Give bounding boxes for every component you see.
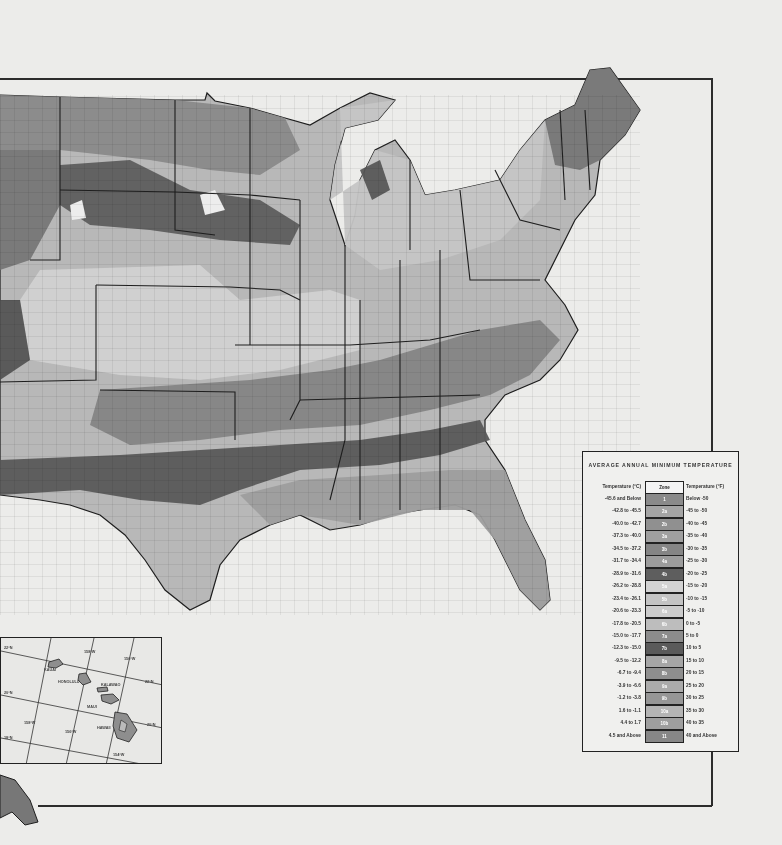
legend-fahrenheit-range: 5 to 0 xyxy=(686,630,738,642)
legend-header-zone: Zone xyxy=(646,482,683,493)
legend-row-zone-5a: -26.2 to -28.8-15 to -20 xyxy=(583,580,738,592)
legend-celsius-range: -37.3 to -40.0 xyxy=(583,530,641,542)
legend-celsius-range: -31.7 to -34.4 xyxy=(583,555,641,567)
legend-celsius-range: -40.0 to -42.7 xyxy=(583,518,641,530)
legend-celsius-range: -9.5 to -12.2 xyxy=(583,655,641,667)
alaska-fragment xyxy=(0,775,38,825)
legend-fahrenheit-range: 40 and Above xyxy=(686,730,738,742)
legend-fahrenheit-range: 40 to 35 xyxy=(686,717,738,729)
grid-label-lat-5: 18°N xyxy=(4,736,12,740)
legend-row-zone-10a: 1.6 to -1.135 to 30 xyxy=(583,705,738,717)
legend-row-zone-7a: -15.0 to -17.75 to 0 xyxy=(583,630,738,642)
grid-label-lon-1: 158°W xyxy=(84,650,95,654)
legend-row-zone-10b: 4.4 to 1.740 to 35 xyxy=(583,717,738,729)
legend-title: AVERAGE ANNUAL MINIMUM TEMPERATURE xyxy=(583,462,738,468)
legend-celsius-range: -26.2 to -28.8 xyxy=(583,580,641,592)
grid-label-lat-4: 20°N xyxy=(147,723,155,727)
grid-label-lon-2: 156°W xyxy=(124,657,135,661)
legend-fahrenheit-range: -5 to -10 xyxy=(686,605,738,617)
legend-celsius-range: -20.6 to -23.3 xyxy=(583,605,641,617)
legend-row-zone-9a: -3.9 to -6.625 to 20 xyxy=(583,680,738,692)
legend-celsius-range: 1.6 to -1.1 xyxy=(583,705,641,717)
legend-celsius-range: -34.5 to -37.2 xyxy=(583,543,641,555)
legend-fahrenheit-range: -25 to -30 xyxy=(686,555,738,567)
legend-fahrenheit-range: -20 to -25 xyxy=(686,568,738,580)
legend-fahrenheit-range: 10 to 5 xyxy=(686,642,738,654)
legend-row-zone-4b: -28.9 to -31.6-20 to -25 xyxy=(583,568,738,580)
legend-row-zone-6b: -17.8 to -20.50 to -5 xyxy=(583,618,738,630)
legend-row-zone-11: 4.5 and Above40 and Above xyxy=(583,730,738,742)
legend-fahrenheit-range: 30 to 25 xyxy=(686,692,738,704)
grid-label-lon-4: 156°W xyxy=(65,730,76,734)
legend-box: AVERAGE ANNUAL MINIMUM TEMPERATURE Tempe… xyxy=(582,451,739,752)
maui-island xyxy=(101,694,119,704)
legend-fahrenheit-range: -15 to -20 xyxy=(686,580,738,592)
molokai-island xyxy=(97,687,108,692)
legend-celsius-range: -1.2 to -3.8 xyxy=(583,692,641,704)
legend-celsius-range: -12.3 to -15.0 xyxy=(583,642,641,654)
hawaii-inset: KAUAI HONOLULU KALAWAO MAUI HAWAII 22°N … xyxy=(0,637,162,764)
label-honolulu: HONOLULU xyxy=(58,680,80,684)
hawaii-grid xyxy=(1,638,162,764)
legend-fahrenheit-range: -30 to -35 xyxy=(686,543,738,555)
legend-row-zone-4a: -31.7 to -34.4-25 to -30 xyxy=(583,555,738,567)
legend-fahrenheit-range: 35 to 30 xyxy=(686,705,738,717)
legend-celsius-range: -15.0 to -17.7 xyxy=(583,630,641,642)
legend-row-zone-2b: -40.0 to -42.7-40 to -45 xyxy=(583,518,738,530)
label-maui: MAUI xyxy=(87,705,97,709)
legend-row-zone-9b: -1.2 to -3.830 to 25 xyxy=(583,692,738,704)
legend-fahrenheit-range: -35 to -40 xyxy=(686,530,738,542)
label-kauai: KAUAI xyxy=(44,668,56,672)
legend-row-zone-6a: -20.6 to -23.3-5 to -10 xyxy=(583,605,738,617)
legend-celsius-range: -3.9 to -6.6 xyxy=(583,680,641,692)
legend-row-zone-2a: -42.8 to -45.5-45 to -50 xyxy=(583,505,738,517)
legend-row-zone-7b: -12.3 to -15.010 to 5 xyxy=(583,642,738,654)
grid-label-lat-3: 20°N xyxy=(4,691,12,695)
legend-header-celsius: Temperature (°C) xyxy=(583,481,641,493)
legend-fahrenheit-range: -10 to -15 xyxy=(686,593,738,605)
legend-celsius-range: 4.5 and Above xyxy=(583,730,641,742)
grid-label-lat-2: 22°N xyxy=(145,680,153,684)
grid-label-lon-3: 158°W xyxy=(24,721,35,725)
legend-fahrenheit-range: 0 to -5 xyxy=(686,618,738,630)
legend-row-zone-1: -45.6 and BelowBelow -50 xyxy=(583,493,738,505)
legend-fahrenheit-range: 20 to 15 xyxy=(686,667,738,679)
legend-celsius-range: -28.9 to -31.6 xyxy=(583,568,641,580)
legend-fahrenheit-range: -40 to -45 xyxy=(686,518,738,530)
legend-celsius-range: 4.4 to 1.7 xyxy=(583,717,641,729)
kauai-island xyxy=(48,659,63,668)
grid-label-lat-1: 22°N xyxy=(4,646,12,650)
legend-row-zone-8a: -9.5 to -12.215 to 10 xyxy=(583,655,738,667)
legend-celsius-range: -17.8 to -20.5 xyxy=(583,618,641,630)
legend-celsius-range: -23.4 to -26.1 xyxy=(583,593,641,605)
legend-row-zone-5b: -23.4 to -26.1-10 to -15 xyxy=(583,593,738,605)
legend-row-zone-3b: -34.5 to -37.2-30 to -35 xyxy=(583,543,738,555)
legend-celsius-range: -6.7 to -9.4 xyxy=(583,667,641,679)
legend-row-zone-8b: -6.7 to -9.420 to 15 xyxy=(583,667,738,679)
legend-row-zone-3a: -37.3 to -40.0-35 to -40 xyxy=(583,530,738,542)
legend-celsius-range: -42.8 to -45.5 xyxy=(583,505,641,517)
legend-fahrenheit-range: 15 to 10 xyxy=(686,655,738,667)
label-kalawao: KALAWAO xyxy=(101,683,120,687)
legend-fahrenheit-range: Below -50 xyxy=(686,493,738,505)
legend-celsius-range: -45.6 and Below xyxy=(583,493,641,505)
label-hawaii: HAWAII xyxy=(97,726,111,730)
legend-fahrenheit-range: -45 to -50 xyxy=(686,505,738,517)
legend-header-fahrenheit: Temperature (°F) xyxy=(686,481,738,493)
legend-fahrenheit-range: 25 to 20 xyxy=(686,680,738,692)
grid-label-lon-5: 154°W xyxy=(113,753,124,757)
